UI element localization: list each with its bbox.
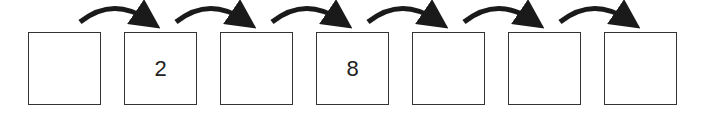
- arrows-layer: [0, 0, 701, 32]
- arrow-6-icon: [560, 8, 628, 22]
- sequence-box-4: 8: [316, 32, 389, 105]
- sequence-box-7: [604, 32, 677, 105]
- arrow-1-icon: [80, 8, 148, 22]
- sequence-box-1: [28, 32, 101, 105]
- sequence-box-2: 2: [124, 32, 197, 105]
- arrow-4-icon: [368, 8, 436, 22]
- sequence-box-5: [412, 32, 485, 105]
- arrow-2-icon: [176, 8, 244, 22]
- arrow-5-icon: [464, 8, 532, 22]
- arrow-3-icon: [272, 8, 340, 22]
- sequence-box-6: [508, 32, 581, 105]
- sequence-box-3: [220, 32, 293, 105]
